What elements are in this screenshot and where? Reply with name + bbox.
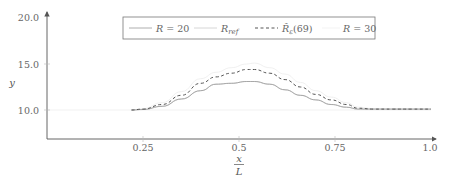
series-line-2 (132, 70, 432, 111)
x-tick-label: 0.25 (132, 142, 153, 153)
y-axis-label: y (8, 77, 15, 88)
series-layer (132, 63, 432, 110)
x-tick-label: 1.0 (422, 142, 437, 153)
legend: R = 20 Rref R̂ε(69) R = 30 (123, 17, 376, 39)
y-tick-label: 15.0 (18, 59, 39, 70)
x-axis-label: x L (234, 153, 244, 177)
svg-text:R = 30: R = 30 (342, 23, 376, 34)
y-tick-label: 10.0 (18, 105, 39, 116)
series-line-1 (132, 82, 432, 111)
series-line-3 (132, 63, 432, 110)
y-tick-label: 20.0 (18, 12, 39, 23)
line-chart: 10.0 15.0 20.0 0.25 0.5 0.75 1.0 y x L R… (0, 0, 449, 184)
svg-text:x: x (236, 153, 242, 164)
svg-text:L: L (235, 166, 243, 177)
svg-text:R = 20: R = 20 (155, 23, 189, 34)
series-line-0 (132, 82, 432, 111)
x-tick-label: 0.5 (231, 142, 246, 153)
x-tick-label: 0.75 (324, 142, 345, 153)
y-ticks: 10.0 15.0 20.0 (18, 12, 50, 116)
